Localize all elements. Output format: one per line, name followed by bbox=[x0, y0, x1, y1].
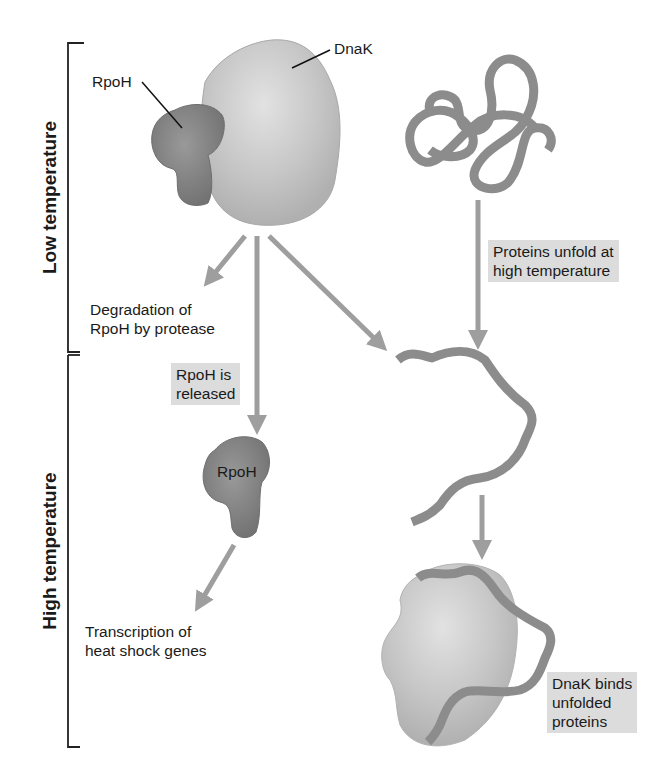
label-dnak-binds: DnaK binds unfolded proteins bbox=[547, 672, 637, 733]
label-dnak: DnaK bbox=[334, 39, 373, 58]
label-transcription-line2: heat shock genes bbox=[85, 641, 207, 660]
arrow-to-degradation bbox=[210, 236, 245, 279]
section-label-high: High temperature bbox=[39, 471, 61, 631]
label-unfold-line2: high temperature bbox=[493, 261, 614, 280]
dnak-rpoh-complex bbox=[142, 40, 340, 226]
label-released-line1: RpoH is bbox=[176, 365, 235, 384]
label-proteins-unfold: Proteins unfold at high temperature bbox=[488, 240, 619, 282]
label-binds-line3: proteins bbox=[552, 712, 632, 731]
label-binds-line1: DnaK binds bbox=[552, 674, 632, 693]
folded-protein-strand bbox=[410, 59, 551, 189]
section-bracket-low bbox=[68, 43, 84, 355]
label-degradation-line2: RpoH by protease bbox=[90, 319, 215, 338]
label-rpoh-released: RpoH is released bbox=[171, 363, 240, 405]
arrows bbox=[200, 200, 482, 603]
label-transcription: Transcription of heat shock genes bbox=[85, 622, 207, 660]
label-degradation-line1: Degradation of bbox=[90, 300, 215, 319]
rpoh-blob-free bbox=[203, 437, 269, 538]
label-unfold-line1: Proteins unfold at bbox=[493, 242, 614, 261]
section-bracket-high bbox=[68, 355, 80, 747]
label-binds-line2: unfolded bbox=[552, 693, 632, 712]
label-rpoh-free: RpoH bbox=[217, 462, 257, 481]
section-label-low: Low temperature bbox=[39, 124, 61, 274]
arrow-to-transcription bbox=[200, 545, 234, 603]
dnak-bound-complex bbox=[382, 564, 551, 746]
label-released-line2: released bbox=[176, 384, 235, 403]
arrow-to-unfolded bbox=[269, 236, 380, 344]
label-degradation: Degradation of RpoH by protease bbox=[90, 300, 215, 338]
diagram-canvas: Low temperature High temperature DnaK Rp… bbox=[0, 0, 671, 774]
unfolded-protein-strand bbox=[398, 352, 532, 523]
label-transcription-line1: Transcription of bbox=[85, 622, 207, 641]
label-rpoh-top: RpoH bbox=[92, 72, 132, 91]
